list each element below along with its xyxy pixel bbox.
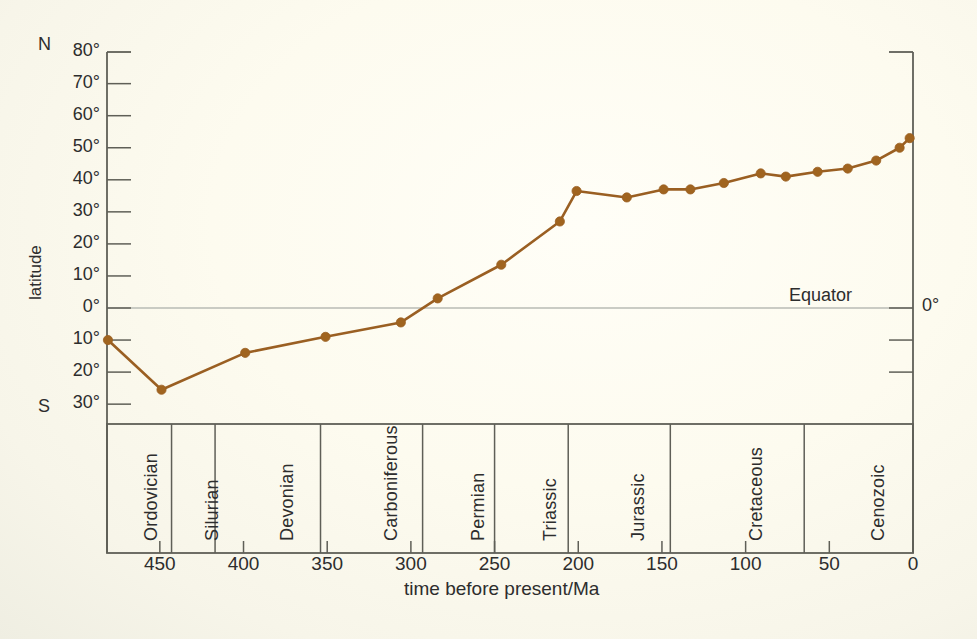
data-point: [686, 185, 695, 194]
x-tick-label-4: 250: [455, 553, 535, 575]
period-label-carboniferous: Carboniferous: [381, 425, 402, 541]
x-tick-label-7: 100: [706, 553, 786, 575]
y-tick-label-1: 70°: [40, 72, 100, 93]
x-tick-label-8: 50: [789, 553, 869, 575]
y-tick-label-9: 10°: [40, 328, 100, 349]
data-point: [497, 260, 506, 269]
y-tick-label-2: 60°: [40, 104, 100, 125]
period-label-devonian: Devonian: [277, 463, 298, 541]
y-tick-label-7: 10°: [40, 264, 100, 285]
y-tick-label-11: 30°: [40, 392, 100, 413]
y-tick-label-6: 20°: [40, 232, 100, 253]
period-label-cenozoic: Cenozoic: [868, 464, 889, 541]
y-tick-label-0: 80°: [40, 40, 100, 61]
data-point: [241, 348, 250, 357]
data-point: [157, 385, 166, 394]
period-label-cretaceous: Cretaceous: [746, 447, 767, 541]
x-tick-label-3: 300: [371, 553, 451, 575]
y-tick-label-8: 0°: [40, 296, 100, 317]
data-point: [659, 185, 668, 194]
x-tick-label-0: 450: [120, 553, 200, 575]
period-label-jurassic: Jurassic: [628, 473, 649, 541]
data-point: [843, 164, 852, 173]
data-point: [872, 156, 881, 165]
x-tick-label-9: 0: [873, 553, 953, 575]
x-axis-title: time before present/Ma: [404, 578, 599, 600]
data-point: [572, 186, 581, 195]
y-tick-label-3: 50°: [40, 136, 100, 157]
data-point: [781, 172, 790, 181]
y-tick-label-4: 40°: [40, 168, 100, 189]
data-point: [433, 294, 442, 303]
data-point: [895, 143, 904, 152]
data-point: [396, 318, 405, 327]
period-label-ordovician: Ordovician: [141, 453, 162, 541]
data-point: [756, 169, 765, 178]
period-label-triassic: Triassic: [540, 478, 561, 541]
right-axis-zero-label: 0°: [922, 295, 939, 316]
period-band-box: [107, 424, 913, 553]
data-point: [813, 167, 822, 176]
data-point: [622, 193, 631, 202]
chart-figure: N S latitude time before present/Ma Equa…: [0, 0, 977, 639]
period-label-permian: Permian: [468, 473, 489, 541]
data-point: [555, 217, 564, 226]
data-point: [321, 332, 330, 341]
x-tick-label-1: 400: [204, 553, 284, 575]
period-label-silurian: Silurian: [202, 479, 223, 541]
data-point: [719, 178, 728, 187]
x-tick-label-2: 350: [287, 553, 367, 575]
y-tick-label-5: 30°: [40, 200, 100, 221]
x-tick-label-6: 150: [622, 553, 702, 575]
y-tick-label-10: 20°: [40, 360, 100, 381]
equator-label: Equator: [789, 285, 852, 306]
data-point: [103, 335, 112, 344]
chart-plot-area: [0, 0, 977, 639]
data-point: [905, 134, 914, 143]
x-tick-label-5: 200: [538, 553, 618, 575]
